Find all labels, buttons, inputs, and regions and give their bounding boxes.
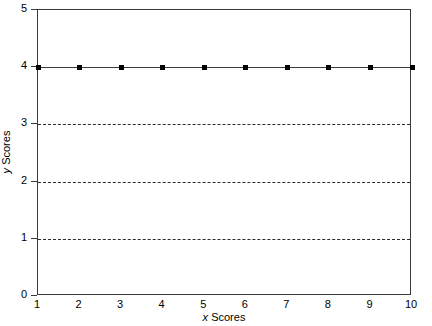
data-point-marker: [243, 65, 248, 70]
x-axis-tick-label: 3: [100, 298, 140, 311]
data-point-marker: [368, 65, 373, 70]
data-point-marker: [119, 65, 124, 70]
gridline: [38, 239, 410, 240]
data-point-marker: [202, 65, 207, 70]
data-point-marker: [77, 65, 82, 70]
y-axis-tick: [31, 295, 37, 296]
data-point-marker: [285, 65, 290, 70]
x-axis-tick-label: 6: [225, 298, 265, 311]
y-axis-tick-label: 5: [0, 3, 27, 14]
y-axis-title-text: Scores: [0, 131, 12, 168]
x-axis-tick-label: 5: [183, 298, 223, 311]
y-axis-tick-label: 1: [0, 232, 27, 243]
x-axis-tick-label: 4: [142, 298, 182, 311]
data-point-marker: [36, 65, 41, 70]
x-axis-tick-label: 9: [349, 298, 389, 311]
y-axis-tick-label: 4: [0, 60, 27, 71]
gridline: [38, 182, 410, 183]
data-point-marker: [410, 65, 415, 70]
y-axis-title-variable: y: [0, 168, 12, 174]
series-line: [38, 67, 410, 68]
x-axis-tick-label: 1: [17, 298, 57, 311]
x-axis-tick-label: 2: [59, 298, 99, 311]
x-axis-title: x Scores: [37, 311, 411, 324]
data-point-marker: [326, 65, 331, 70]
x-axis-tick-label: 10: [391, 298, 431, 311]
y-axis-title: y Scores: [0, 112, 13, 192]
x-axis-tick-label: 8: [308, 298, 348, 311]
chart-figure: 012345 12345678910 x Scores y Scores: [0, 0, 432, 326]
data-point-marker: [160, 65, 165, 70]
x-axis-title-text: Scores: [208, 311, 245, 323]
x-axis-tick-label: 7: [266, 298, 306, 311]
gridline: [38, 124, 410, 125]
plot-area: [37, 9, 411, 295]
